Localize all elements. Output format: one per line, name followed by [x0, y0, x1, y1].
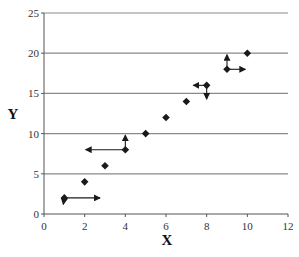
data-point-diamond — [162, 114, 170, 122]
data-point-diamond — [183, 98, 191, 106]
x-tick-label: 8 — [204, 220, 210, 232]
x-tick-label: 2 — [82, 220, 88, 232]
y-axis-ticks: 0510152025 — [28, 7, 44, 220]
y-tick-label: 0 — [34, 208, 40, 220]
axes — [44, 13, 288, 214]
data-point-diamond — [101, 162, 109, 170]
x-axis-label: X — [162, 232, 173, 248]
y-axis-label: Y — [8, 106, 19, 122]
x-tick-label: 0 — [41, 220, 47, 232]
y-tick-label: 20 — [28, 47, 40, 59]
y-tick-label: 25 — [28, 7, 40, 19]
y-tick-label: 10 — [28, 128, 40, 140]
x-tick-label: 6 — [163, 220, 169, 232]
data-point-diamond — [81, 178, 89, 186]
data-point-diamond — [61, 194, 69, 202]
grid-lines — [44, 13, 288, 174]
data-points — [61, 49, 252, 201]
data-point-diamond — [122, 146, 130, 154]
annotation-arrows — [63, 55, 245, 205]
data-point-diamond — [244, 49, 252, 57]
y-tick-label: 15 — [28, 87, 40, 99]
scatter-chart: 0510152025 024681012 Y X — [0, 0, 299, 257]
x-axis-ticks: 024681012 — [41, 214, 293, 232]
x-tick-label: 4 — [123, 220, 129, 232]
x-tick-label: 12 — [283, 220, 294, 232]
data-point-diamond — [203, 82, 211, 90]
data-point-diamond — [223, 65, 231, 73]
x-tick-label: 10 — [242, 220, 254, 232]
y-tick-label: 5 — [34, 168, 40, 180]
data-point-diamond — [142, 130, 150, 138]
